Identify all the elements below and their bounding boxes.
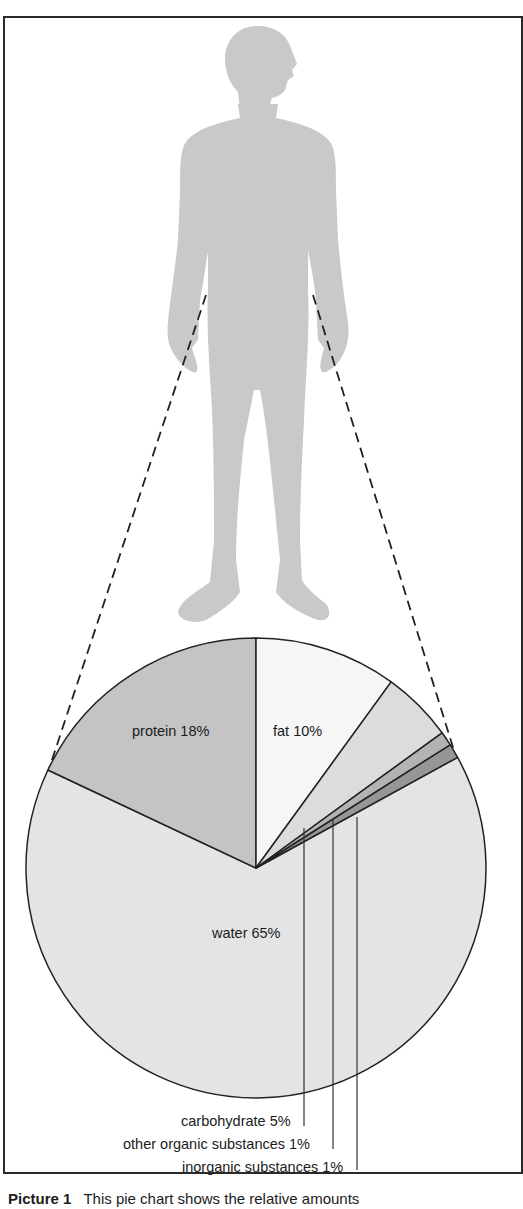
figure-caption: Picture 1This pie chart shows the relati… (8, 1190, 359, 1207)
label-fat: fat 10% (273, 723, 322, 739)
pie-chart (26, 638, 486, 1098)
caption-text: This pie chart shows the relative amount… (83, 1190, 359, 1207)
label-carbohydrate: carbohydrate 5% (181, 1113, 291, 1129)
caption-label: Picture 1 (8, 1190, 71, 1207)
label-water: water 65% (212, 925, 281, 941)
human-silhouette-icon (167, 26, 348, 622)
label-protein: protein 18% (132, 723, 209, 739)
label-inorganic: inorganic substances 1% (182, 1159, 343, 1175)
label-other-organic: other organic substances 1% (123, 1136, 310, 1152)
